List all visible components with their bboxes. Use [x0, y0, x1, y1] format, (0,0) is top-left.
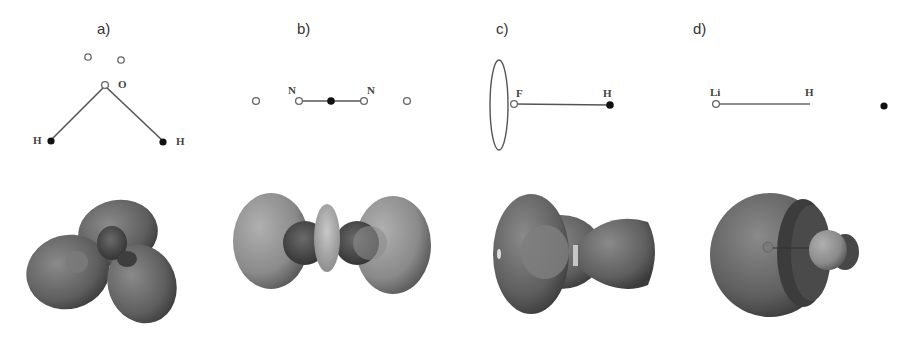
orbital-renderings — [0, 0, 922, 338]
orbital-b — [233, 193, 431, 294]
orbital-a — [18, 194, 188, 334]
orbital-c — [493, 194, 655, 314]
orbital-d — [710, 193, 859, 317]
